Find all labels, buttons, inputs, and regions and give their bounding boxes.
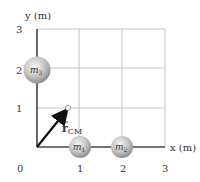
axes: [37, 29, 165, 147]
cm-diagram: rCM m3 m1 m2 0 1 2 3 1 2 3 y (m) x (m): [0, 0, 200, 182]
x-tick-0: 0: [17, 163, 23, 174]
y-tick-1: 1: [16, 103, 22, 114]
mass-m1: m1: [69, 136, 91, 158]
grid: [37, 29, 165, 147]
x-axis-label: x (m): [170, 142, 196, 153]
y-axis-label: y (m): [24, 10, 51, 21]
x-tick-3: 3: [162, 163, 168, 174]
y-tick-3: 3: [16, 24, 22, 35]
mass-m3: m3: [24, 57, 51, 84]
x-tick-1: 1: [77, 163, 83, 174]
x-tick-2: 2: [120, 163, 126, 174]
y-tick-2: 2: [16, 65, 22, 76]
mass-m2: m2: [111, 136, 133, 158]
center-of-mass-marker: [66, 106, 71, 111]
